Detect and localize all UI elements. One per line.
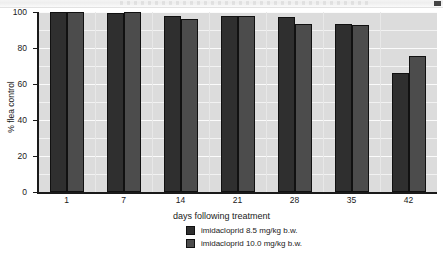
x-tick-label: 35 [347,195,356,205]
x-axis-labels: 171421283542 [38,195,437,209]
y-axis-title: % flea control [6,47,16,167]
y-tick-label: 100 [13,8,27,17]
bar [181,19,198,192]
bar-group [50,12,84,192]
bar-group [221,12,255,192]
bar-group [107,12,141,192]
page-corner-mark [434,1,441,6]
x-tick-label: 21 [233,195,242,205]
bar [352,25,369,192]
bar [107,13,124,192]
bar [335,24,352,192]
x-tick-label: 28 [290,195,299,205]
legend-label: imidacloprid 8.5 mg/kg b.w. [201,226,298,235]
faded-caption-text [120,1,370,5]
chart-plot-wrapper: 020406080100 % flea control 171421283542… [0,7,443,197]
legend-item: imidacloprid 8.5 mg/kg b.w. [0,226,443,235]
x-tick-label: 14 [176,195,185,205]
legend-label: imidacloprid 10.0 mg/kg b.w. [201,239,302,248]
y-tick-mark [33,120,38,121]
x-tick-label: 42 [404,195,413,205]
bar-series-container [38,12,437,192]
bar [67,12,84,192]
y-tick-mark [33,12,38,13]
bar [295,24,312,192]
x-axis-title: days following treatment [0,211,443,221]
plot-area [38,12,437,192]
y-tick-mark [33,192,38,193]
x-tick-label: 1 [64,195,69,205]
chart-page: 020406080100 % flea control 171421283542… [0,0,443,264]
bar [164,16,181,192]
bar [238,16,255,192]
y-tick-label: 80 [18,44,27,53]
x-tick-label: 7 [121,195,126,205]
bar [409,56,426,192]
bar [221,16,238,192]
legend-swatch-icon [186,226,195,235]
y-tick-label: 20 [18,152,27,161]
bar [392,73,409,192]
chart-legend: imidacloprid 8.5 mg/kg b.w. imidacloprid… [0,226,443,252]
legend-swatch-icon [186,239,195,248]
bar-group [392,12,426,192]
bar-group [278,12,312,192]
y-tick-label: 40 [18,116,27,125]
bar [50,12,67,192]
y-tick-mark [33,48,38,49]
bar-group [164,12,198,192]
x-axis-line [37,192,437,194]
y-tick-label: 60 [18,80,27,89]
y-axis-line [37,12,39,192]
bar [124,12,141,192]
legend-item: imidacloprid 10.0 mg/kg b.w. [0,239,443,248]
y-tick-label: 0 [22,188,27,197]
y-tick-mark [33,156,38,157]
y-tick-mark [33,84,38,85]
bar-group [335,12,369,192]
bar [278,17,295,192]
